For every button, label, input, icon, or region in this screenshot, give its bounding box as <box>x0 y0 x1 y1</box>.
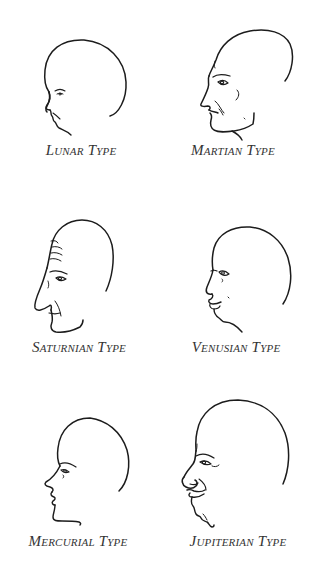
venusian-head-drawing <box>206 227 290 332</box>
saturnian-head-drawing <box>35 220 113 332</box>
lunar-head-drawing <box>45 40 126 135</box>
mercurial-head-drawing <box>45 418 129 525</box>
caption-mercurial-type: Mercurial Type <box>29 534 128 549</box>
jupiterian-head-drawing <box>182 400 288 527</box>
caption-martian-type: Martian Type <box>191 143 275 158</box>
caption-lunar-type: Lunar Type <box>46 143 117 158</box>
caption-jupiterian-type: Jupiterian Type <box>190 534 287 549</box>
physiognomy-figure: Lunar Type Martian Type Saturnian Type V… <box>0 0 315 577</box>
martian-head-drawing <box>201 30 293 140</box>
caption-venusian-type: Venusian Type <box>192 340 281 355</box>
profile-drawings <box>0 0 315 577</box>
caption-saturnian-type: Saturnian Type <box>32 340 126 355</box>
